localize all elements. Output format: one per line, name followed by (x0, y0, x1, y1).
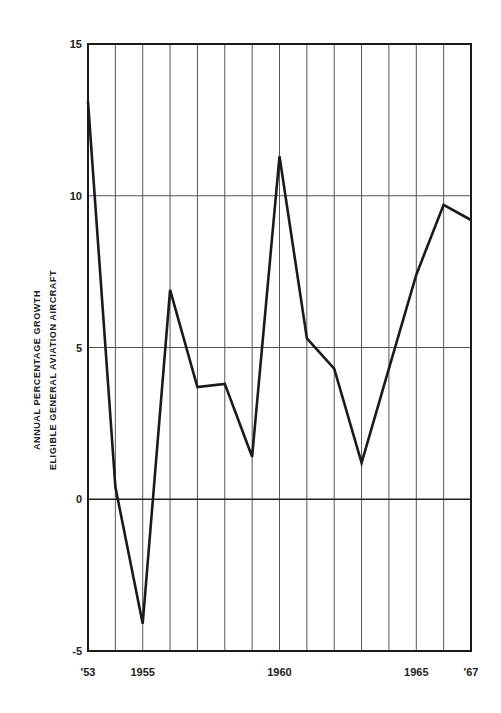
x-tick-label: 1955 (130, 666, 154, 678)
y-axis-label-line-2: ELIGIBLE GENERAL AVIATION AIRCRAFT (48, 270, 58, 470)
x-axis-ticks: '53195519601965'67 (81, 666, 479, 678)
y-axis-label-line-1: ANNUAL PERCENTAGE GROWTH (32, 290, 42, 450)
x-tick-label: '67 (464, 666, 479, 678)
y-axis-label: ANNUAL PERCENTAGE GROWTH ELIGIBLE GENERA… (32, 270, 58, 470)
x-tick-label: '53 (81, 666, 96, 678)
y-tick-label: 15 (70, 38, 82, 50)
x-tick-label: 1965 (404, 666, 428, 678)
y-tick-label: 10 (70, 190, 82, 202)
y-tick-label: -5 (72, 645, 82, 657)
y-axis-ticks: -5051015 (70, 38, 82, 657)
x-tick-label: 1960 (267, 666, 291, 678)
y-tick-label: 0 (76, 493, 82, 505)
y-tick-label: 5 (76, 342, 82, 354)
grid-lines (88, 44, 471, 651)
line-chart: -5051015 '53195519601965'67 ANNUAL PERCE… (0, 0, 501, 713)
